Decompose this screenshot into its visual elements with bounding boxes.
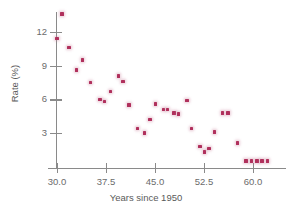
data-point xyxy=(103,100,107,104)
y-tick-label-3: 3 xyxy=(25,127,47,138)
data-point xyxy=(136,127,140,131)
y-tick-label-6: 6 xyxy=(25,93,47,104)
x-tick-label-60.0: 60.0 xyxy=(233,176,273,187)
data-point xyxy=(213,130,217,134)
y-tick-3 xyxy=(50,133,62,134)
y-tick-6 xyxy=(50,99,62,100)
data-point xyxy=(109,90,113,94)
y-axis-line xyxy=(56,12,57,169)
data-point xyxy=(143,131,147,135)
x-tick-37.5 xyxy=(106,163,107,173)
data-point xyxy=(244,159,248,163)
data-point xyxy=(81,58,85,62)
data-point xyxy=(260,159,264,163)
y-axis-title: Rate (%) xyxy=(9,54,20,114)
data-point xyxy=(255,159,259,163)
data-point xyxy=(172,111,176,115)
data-point xyxy=(55,37,59,41)
data-point xyxy=(98,98,102,102)
data-point xyxy=(127,103,131,107)
data-point xyxy=(207,147,211,151)
data-point xyxy=(190,127,194,131)
plot-area: 36912 30.037.545.052.560.0 Years since 1… xyxy=(0,0,292,211)
data-point xyxy=(162,108,166,112)
data-point xyxy=(67,46,71,50)
x-tick-label-45.0: 45.0 xyxy=(135,176,175,187)
y-tick-12 xyxy=(50,32,62,33)
data-point xyxy=(226,111,230,115)
data-point xyxy=(154,102,158,106)
data-point xyxy=(177,112,181,116)
data-point xyxy=(266,159,270,163)
data-point xyxy=(75,68,79,72)
x-tick-45.0 xyxy=(155,163,156,173)
data-point xyxy=(221,111,225,115)
data-point xyxy=(60,12,64,16)
x-tick-30.0 xyxy=(57,163,58,173)
data-point xyxy=(89,81,93,85)
data-point xyxy=(166,108,170,112)
x-tick-52.5 xyxy=(204,163,205,173)
data-point xyxy=(203,150,207,154)
data-point xyxy=(250,159,254,163)
data-point xyxy=(121,80,125,84)
x-tick-label-37.5: 37.5 xyxy=(86,176,126,187)
y-tick-label-9: 9 xyxy=(25,60,47,71)
data-point xyxy=(236,141,240,145)
y-tick-label-12: 12 xyxy=(25,26,47,37)
scatter-plot-figure: 36912 30.037.545.052.560.0 Years since 1… xyxy=(0,0,292,211)
y-tick-9 xyxy=(50,66,62,67)
x-tick-60.0 xyxy=(253,163,254,173)
x-tick-label-52.5: 52.5 xyxy=(184,176,224,187)
x-tick-label-30.0: 30.0 xyxy=(37,176,77,187)
data-point xyxy=(148,118,152,122)
data-point xyxy=(117,74,121,78)
x-axis-title: Years since 1950 xyxy=(0,192,292,203)
data-point xyxy=(185,99,189,103)
data-point xyxy=(198,145,202,149)
x-axis-line xyxy=(48,168,286,169)
